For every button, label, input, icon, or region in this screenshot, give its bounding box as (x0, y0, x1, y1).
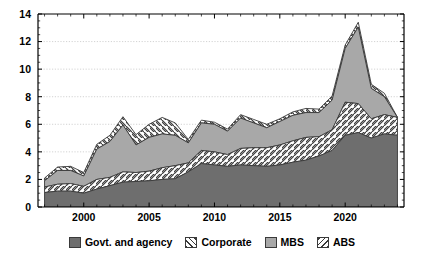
y-axis-tick-labels: 02468101214 (19, 8, 31, 213)
y-tick-label: 4 (25, 146, 31, 158)
legend-swatch-icon (317, 237, 329, 248)
legend-swatch-icon (185, 237, 197, 248)
legend-item-1[interactable]: Corporate (185, 236, 251, 248)
legend-item-0[interactable]: Govt. and agency (69, 236, 173, 248)
plot-area-wrapper: 02468101214 20002005201020152020 (0, 0, 424, 225)
legend-label: MBS (281, 236, 304, 248)
x-tick-label: 2010 (203, 211, 227, 223)
y-tick-label: 10 (19, 63, 31, 75)
y-tick-label: 8 (25, 91, 31, 103)
x-tick-label: 2015 (268, 211, 292, 223)
legend-item-2[interactable]: MBS (265, 236, 304, 248)
chart-figure: 02468101214 20002005201020152020 Govt. a… (0, 0, 424, 269)
y-tick-label: 14 (19, 8, 31, 20)
chart-legend: Govt. and agencyCorporateMBSABS (0, 231, 424, 253)
legend-label: Govt. and agency (85, 236, 173, 248)
x-tick-label: 2005 (137, 211, 161, 223)
legend-label: Corporate (201, 236, 251, 248)
x-tick-label: 2000 (72, 211, 96, 223)
x-tick-label: 2020 (333, 211, 357, 223)
x-axis-tick-labels: 20002005201020152020 (72, 211, 357, 223)
y-tick-label: 2 (25, 173, 31, 185)
y-tick-label: 12 (19, 35, 31, 47)
stacked-area-chart: 02468101214 20002005201020152020 (0, 0, 424, 225)
legend-swatch-icon (265, 237, 277, 248)
y-tick-label: 0 (25, 201, 31, 213)
legend-label: ABS (333, 236, 355, 248)
legend-swatch-icon (69, 237, 81, 248)
legend-item-3[interactable]: ABS (317, 236, 355, 248)
y-tick-label: 6 (25, 118, 31, 130)
